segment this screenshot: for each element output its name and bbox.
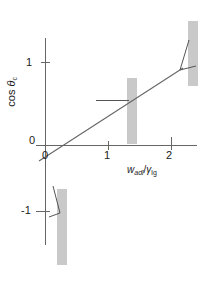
x-tick-label-0: 0: [42, 150, 48, 161]
y-axis-label-symbol: θ: [5, 81, 17, 87]
y-axis-label: cos θc: [5, 62, 21, 122]
y-axis-label-subscript: c: [11, 77, 18, 81]
y-axis-label-prefix: cos: [5, 87, 17, 107]
x-tick-label-2: 2: [166, 150, 172, 161]
y-tick-label-0: 0: [29, 135, 35, 146]
data-line-young-dupre: [39, 68, 183, 161]
substrate-bar-middle: [127, 78, 137, 144]
x-axis-label-subscript2: lg: [151, 169, 156, 176]
x-axis-label-subscript: adl: [134, 169, 143, 176]
substrate-bar-left: [57, 189, 67, 265]
y-tick-label-minus1: -1: [21, 205, 31, 216]
x-axis-label: wadl/γlg: [127, 164, 157, 178]
contact-angle-plot-figure: cos θc wadl/γlg 0 1 2 1 -1 0: [0, 0, 209, 282]
x-tick-label-1: 1: [104, 150, 110, 161]
substrate-bar-right: [188, 21, 198, 86]
y-tick-label-1: 1: [26, 57, 32, 68]
